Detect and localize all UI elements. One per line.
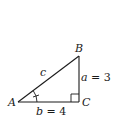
vertex-label-a: A [7, 96, 16, 109]
side-c [18, 56, 79, 102]
side-b-var: b [36, 105, 43, 118]
side-b-value: = 4 [43, 105, 66, 118]
vertex-label-c: C [82, 96, 91, 109]
vertex-label-b: B [74, 42, 83, 55]
side-label-b: b = 4 [36, 105, 66, 118]
right-angle-marker [71, 94, 79, 102]
side-label-a: a = 3 [81, 71, 111, 84]
triangle-diagram: A B C c a = 3 b = 4 [0, 0, 114, 126]
side-a-value: = 3 [88, 71, 111, 84]
side-label-c: c [40, 66, 46, 79]
